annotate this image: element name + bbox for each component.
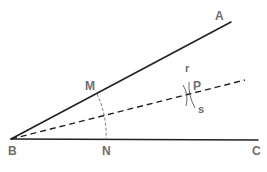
arc-r: [183, 85, 187, 106]
label-point-p: P: [193, 80, 201, 92]
label-arc-s: s: [198, 104, 204, 115]
label-point-b: B: [8, 145, 17, 157]
label-point-a: A: [215, 10, 224, 22]
label-point-n: N: [102, 145, 111, 157]
label-arc-r: r: [185, 63, 189, 74]
angle-bisector-diagram: [0, 0, 267, 172]
label-point-m: M: [85, 80, 95, 92]
label-point-c: C: [252, 145, 261, 157]
ray-bc: [11, 139, 258, 140]
bisector-line: [11, 80, 245, 139]
